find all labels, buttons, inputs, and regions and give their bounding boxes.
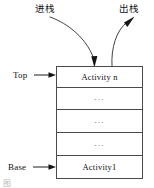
stack-row: Activity n <box>57 67 142 88</box>
pop-arrow-icon <box>112 17 135 67</box>
push-label: 进栈 <box>35 3 56 14</box>
stack-row: Activity1 <box>57 156 142 178</box>
caption-remnant: 图 <box>3 179 17 187</box>
top-label: Top <box>13 70 27 80</box>
activity-stack-diagram: 进栈 出栈 Top Base Activity n ... ... ... Ac… <box>0 0 154 188</box>
base-label: Base <box>8 162 26 172</box>
stack-row: ... <box>57 133 142 157</box>
stack-row: ... <box>57 110 142 133</box>
push-arrow-icon <box>50 17 97 68</box>
base-pointer-arrow-icon <box>33 163 57 171</box>
stack-row: ... <box>57 88 142 111</box>
stack-container: Activity n ... ... ... Activity1 <box>56 66 143 179</box>
pop-label: 出栈 <box>119 3 140 14</box>
top-pointer-arrow-icon <box>34 71 57 79</box>
